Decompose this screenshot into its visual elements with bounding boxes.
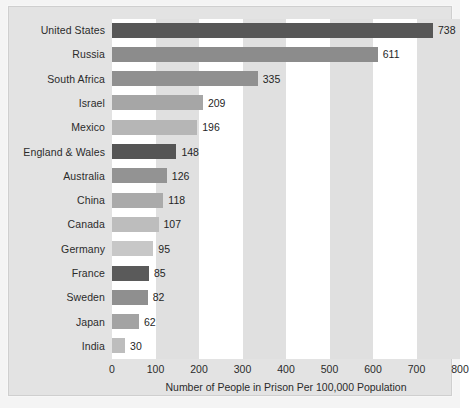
bar-value-label: 611 <box>383 47 400 62</box>
category-label: Germany <box>9 242 105 257</box>
x-tick-label: 100 <box>147 363 165 375</box>
bar-row: Sweden82 <box>9 286 469 310</box>
bar <box>112 23 433 38</box>
bar <box>112 266 149 281</box>
category-label: United States <box>9 23 105 38</box>
bar-row: Germany95 <box>9 238 469 262</box>
x-axis-title: Number of People in Prison Per 100,000 P… <box>112 381 460 393</box>
category-label: Russia <box>9 47 105 62</box>
x-tick-label: 800 <box>451 363 469 375</box>
category-label: England & Wales <box>9 145 105 160</box>
bar-value-label: 126 <box>172 169 190 184</box>
x-tick-label: 200 <box>190 363 208 375</box>
bar-row: England & Wales148 <box>9 141 469 165</box>
x-tick-label: 300 <box>234 363 252 375</box>
x-tick-label: 0 <box>109 363 115 375</box>
category-label: Sweden <box>9 290 105 305</box>
category-label: Israel <box>9 96 105 111</box>
bar <box>112 314 139 329</box>
bar-value-label: 30 <box>130 339 142 354</box>
bar <box>112 338 125 353</box>
bar <box>112 241 153 256</box>
x-tick-label: 500 <box>321 363 339 375</box>
bar-row: France85 <box>9 262 469 286</box>
bar-row: United States738 <box>9 19 469 43</box>
bar-value-label: 209 <box>208 96 226 111</box>
bar-value-label: 738 <box>438 23 456 38</box>
bar-value-label: 95 <box>158 242 170 257</box>
category-label: Mexico <box>9 120 105 135</box>
bar-row: Mexico196 <box>9 116 469 140</box>
bar-row: Japan62 <box>9 311 469 335</box>
bar <box>112 144 176 159</box>
category-label: Australia <box>9 169 105 184</box>
bar-value-label: 148 <box>181 145 199 160</box>
bar-value-label: 196 <box>202 120 220 135</box>
bar-value-label: 85 <box>154 266 166 281</box>
x-tick-label: 700 <box>408 363 426 375</box>
bar <box>112 217 159 232</box>
bar <box>112 193 163 208</box>
bar-row: China118 <box>9 189 469 213</box>
category-label: South Africa <box>9 72 105 87</box>
bar-value-label: 82 <box>153 290 165 305</box>
bar-value-label: 335 <box>263 72 281 87</box>
x-tick-label: 600 <box>364 363 382 375</box>
chart-plate: United States738Russia611South Africa335… <box>8 6 452 396</box>
bar-value-label: 118 <box>168 193 185 208</box>
bar-row: Canada107 <box>9 213 469 237</box>
bar-value-label: 62 <box>144 315 156 330</box>
bar-row: Australia126 <box>9 165 469 189</box>
bar <box>112 95 203 110</box>
category-label: India <box>9 339 105 354</box>
bar-row: India30 <box>9 335 469 359</box>
bar <box>112 290 148 305</box>
category-label: China <box>9 193 105 208</box>
bar-row: South Africa335 <box>9 68 469 92</box>
bar-value-label: 107 <box>164 217 182 232</box>
x-tick-label: 400 <box>277 363 295 375</box>
bar <box>112 120 197 135</box>
category-label: France <box>9 266 105 281</box>
bar-row: Russia611 <box>9 43 469 67</box>
bar-row: Israel209 <box>9 92 469 116</box>
bar <box>112 47 378 62</box>
x-axis-ticks: 0100200300400500600700800 <box>9 359 469 381</box>
bar-rows: United States738Russia611South Africa335… <box>9 19 469 359</box>
category-label: Canada <box>9 217 105 232</box>
category-label: Japan <box>9 315 105 330</box>
bar <box>112 168 167 183</box>
bar <box>112 71 258 86</box>
